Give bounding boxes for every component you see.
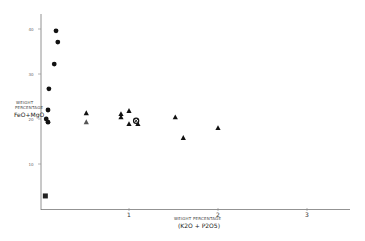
x-tick-label: 3 <box>305 211 309 218</box>
x-axis-label: WEIGHT PERCENTAGE <box>174 216 221 221</box>
circle-point <box>47 86 52 91</box>
x-tick-label: 1 <box>127 211 131 218</box>
triangle-point <box>84 110 89 115</box>
y-ticks: 10203040 <box>28 27 41 167</box>
circle-point <box>46 108 51 113</box>
triangle-point <box>173 114 178 119</box>
triangle-point <box>215 125 220 130</box>
crossed-circle-point <box>134 118 139 123</box>
triangle-point <box>126 108 131 113</box>
triangle-point <box>126 121 131 126</box>
y-axis-label-line2: PERCENTAGE <box>15 105 44 110</box>
x-axis-label-sub: (K2O + P2O5) <box>178 222 220 229</box>
square-point <box>43 193 48 198</box>
data-marks <box>43 28 221 198</box>
y-axis-label-line3: FeO+MgO <box>14 111 45 119</box>
y-tick-label: 40 <box>28 27 34 32</box>
y-tick-label: 30 <box>28 72 34 77</box>
triangle-light-point <box>84 119 89 124</box>
y-tick-label: 10 <box>28 162 34 167</box>
circle-point <box>54 28 59 33</box>
triangle-point <box>181 135 186 140</box>
scatter-chart: 10203040 123 WEIGHT PERCENTAGE FeO+MgO W… <box>0 0 365 241</box>
circle-point <box>55 40 60 45</box>
axes <box>41 14 350 210</box>
circle-point <box>52 62 57 67</box>
circle-point <box>46 120 51 125</box>
